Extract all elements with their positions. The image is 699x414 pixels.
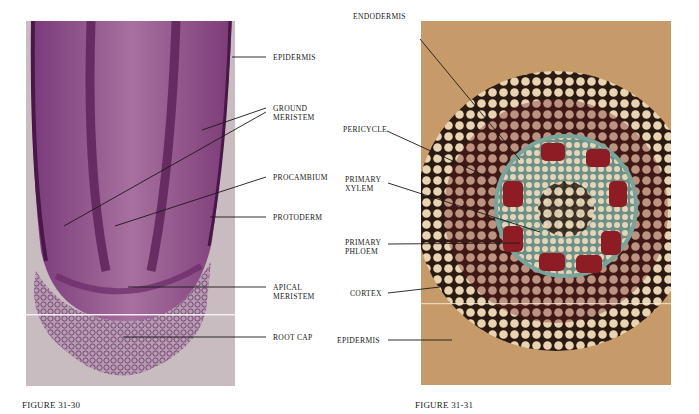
label-procambium: PROCAMBIUM — [273, 173, 328, 182]
label-primary-xylem: PRIMARY XYLEM — [345, 175, 381, 193]
label-epidermis-left: EPIDERMIS — [273, 53, 316, 62]
label-primary-phloem: PRIMARY PHLOEM — [345, 238, 381, 256]
caption-figure-31-31: FIGURE 31-31 — [415, 400, 473, 410]
label-cortex: CORTEX — [350, 289, 382, 298]
root-tip-micrograph — [26, 21, 235, 386]
root-cross-section-micrograph — [421, 21, 671, 385]
label-ground-meristem: GROUND MERISTEM — [273, 104, 315, 122]
label-apical-meristem: APICAL MERISTEM — [273, 283, 315, 301]
caption-figure-31-30: FIGURE 31-30 — [22, 400, 80, 410]
label-epidermis-right: EPIDERMIS — [337, 336, 380, 345]
label-protoderm: PROTODERM — [273, 213, 322, 222]
label-endodermis: ENDODERMIS — [353, 12, 406, 21]
label-root-cap: ROOT CAP — [273, 333, 313, 342]
root-tip-illustration — [26, 21, 235, 386]
root-cross-section-illustration — [421, 21, 671, 385]
label-pericycle: PERICYCLE — [343, 125, 387, 134]
